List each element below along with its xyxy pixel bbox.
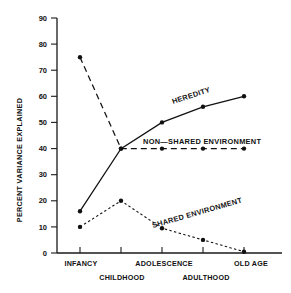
y-axis-title: PERCENT VARIANCE EXPLAINED (15, 98, 24, 222)
x-label-infancy: INFANCY (65, 259, 98, 268)
series-heredity (78, 94, 246, 213)
y-label-90: 90 (39, 14, 47, 23)
data-point (160, 146, 164, 150)
data-point (242, 250, 246, 254)
series-label-heredity: HEREDITY (171, 85, 212, 106)
data-point (201, 146, 205, 150)
line-chart: PERCENT VARIANCE EXPLAINED 0 10 20 30 40… (0, 0, 291, 293)
y-axis-ticks (51, 18, 57, 253)
data-point (78, 209, 82, 213)
series-label-shared-environment: SHARED ENVIRONMENT (151, 196, 243, 230)
data-point (242, 94, 246, 98)
x-axis-ticks (80, 247, 244, 253)
data-point (119, 199, 123, 203)
data-point (201, 105, 205, 109)
data-point (78, 225, 82, 229)
y-axis-labels: 0 10 20 30 40 50 60 70 80 90 (39, 14, 47, 258)
y-label-70: 70 (39, 66, 47, 75)
series-label-non-shared-environment: NON—SHARED ENVIRONMENT (143, 137, 261, 146)
y-label-20: 20 (39, 196, 47, 205)
data-point (242, 146, 246, 150)
data-point (119, 146, 123, 150)
x-axis-labels: INFANCY ADOLESCENCE OLD AGE CHILDHOOD AD… (65, 259, 268, 282)
data-point (78, 55, 82, 59)
y-label-0: 0 (43, 249, 47, 258)
y-label-80: 80 (39, 40, 47, 49)
x-label-old-age: OLD AGE (234, 259, 268, 268)
data-point (160, 120, 164, 124)
x-label-adolescence: ADOLESCENCE (135, 259, 192, 268)
x-label-adulthood: ADULTHOOD (182, 273, 229, 282)
y-label-40: 40 (39, 144, 47, 153)
y-label-10: 10 (39, 223, 47, 232)
y-label-50: 50 (39, 118, 47, 127)
data-point (201, 238, 205, 242)
chart-container: PERCENT VARIANCE EXPLAINED 0 10 20 30 40… (0, 0, 291, 293)
y-label-60: 60 (39, 92, 47, 101)
x-label-childhood: CHILDHOOD (99, 273, 144, 282)
y-label-30: 30 (39, 170, 47, 179)
